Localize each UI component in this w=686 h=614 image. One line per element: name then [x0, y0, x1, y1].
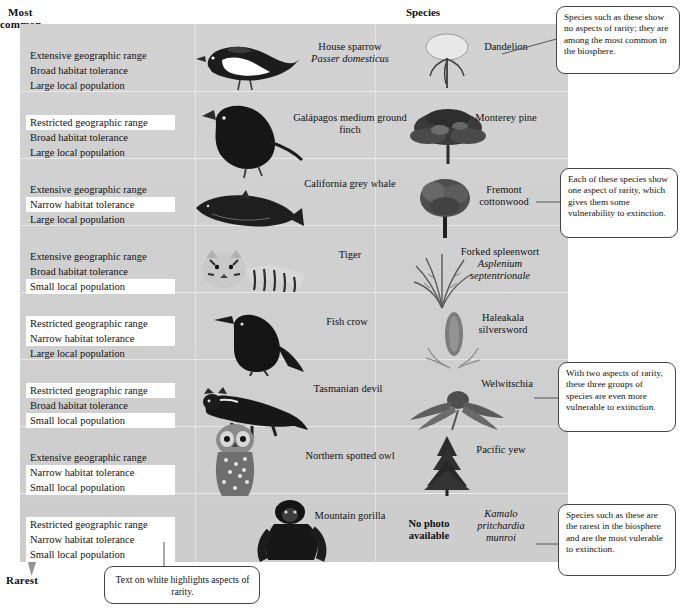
criteria-cell-row-1: Extensive geographic range Broad habitat…: [26, 48, 174, 93]
callout-rarest: Species such as these are the rarest in …: [558, 504, 676, 576]
species-column-header: Species: [368, 6, 478, 18]
species-name-spotted-owl: Northern spotted owl: [288, 450, 412, 462]
species-common-name: Dandelion: [484, 41, 528, 52]
criteria-line: Extensive geographic range: [26, 182, 174, 197]
callout-legend: Text on white highlights aspects of rari…: [104, 566, 260, 604]
criteria-line: Extensive geographic range: [26, 48, 174, 63]
tiger-illustration: [198, 248, 306, 310]
fish-crow-illustration: [196, 310, 306, 376]
species-name-tasmanian-devil: Tasmanian devil: [292, 383, 404, 395]
species-name-tiger: Tiger: [300, 249, 400, 261]
species-common-name: Forked spleenwort: [461, 246, 539, 257]
species-common-name: Fremont cottonwood: [479, 184, 529, 207]
monterey-pine-illustration: [400, 100, 496, 166]
criteria-line-highlighted: Narrow habitat tolerance: [26, 532, 175, 547]
criteria-line: Large local population: [26, 346, 174, 361]
species-name-fremont-cottonwood: Fremont cottonwood: [466, 184, 542, 208]
criteria-line-highlighted: Small local population: [26, 279, 175, 294]
species-common-name: Fish crow: [326, 316, 368, 327]
axis-most-line1: Most: [8, 6, 33, 18]
species-common-name: Haleakala silversword: [479, 312, 528, 335]
criteria-line-highlighted: Narrow habitat tolerance: [26, 331, 175, 346]
criteria-line: Broad habitat tolerance: [26, 130, 174, 145]
grey-whale-illustration: [192, 186, 312, 236]
species-scientific-name: Asplenium septentrionale: [450, 258, 550, 282]
criteria-line-highlighted: Restricted geographic range: [26, 115, 175, 130]
species-common-name: Galápagos medium ground finch: [293, 112, 407, 135]
species-common-name: California grey whale: [304, 178, 396, 189]
no-photo-label: No photo available: [408, 518, 449, 541]
criteria-line: Broad habitat tolerance: [26, 398, 174, 413]
criteria-line-highlighted: Restricted geographic range: [26, 316, 175, 331]
species-common-name: Northern spotted owl: [305, 450, 394, 461]
species-name-kamalo-pritchardia: Kamalo pritchardia munroi: [462, 508, 540, 544]
criteria-line-highlighted: Narrow habitat tolerance: [26, 197, 175, 212]
callout-no-rarity: Species such as these show no aspects of…: [556, 6, 680, 74]
species-name-haleakala-silversword: Haleakala silversword: [462, 312, 544, 336]
species-name-dandelion: Dandelion: [470, 41, 542, 53]
species-name-mountain-gorilla: Mountain gorilla: [292, 510, 408, 522]
species-name-grey-whale: California grey whale: [288, 178, 412, 190]
species-name-ground-finch: Galápagos medium ground finch: [290, 112, 410, 136]
ground-finch-illustration: [186, 98, 306, 180]
criteria-line: Broad habitat tolerance: [26, 264, 174, 279]
criteria-line: Large local population: [26, 212, 174, 227]
species-scientific-name: Passer domesticus: [290, 53, 410, 65]
species-name-pacific-yew: Pacific yew: [470, 444, 532, 456]
species-name-welwitschia: Welwitschia: [470, 378, 544, 390]
criteria-line-highlighted: Restricted geographic range: [26, 517, 175, 532]
pacific-yew-illustration: [412, 432, 482, 498]
callout-two-aspects: With two aspects of rarity, these three …: [558, 362, 676, 432]
criteria-cell-row-5: Restricted geographic range Narrow habit…: [26, 316, 174, 361]
species-common-name: House sparrow: [318, 41, 381, 52]
callout-one-aspect: Each of these species show one aspect of…: [560, 168, 678, 238]
criteria-cell-row-2: Restricted geographic range Broad habita…: [26, 115, 174, 160]
species-common-name: Pacific yew: [476, 444, 525, 455]
species-name-monterey-pine: Monterey pine: [470, 112, 542, 124]
species-common-name: Monterey pine: [475, 112, 537, 123]
species-name-house-sparrow: House sparrow Passer domesticus: [290, 41, 410, 65]
criteria-line-highlighted: Small local population: [26, 413, 175, 428]
criteria-cell-row-8: Restricted geographic range Narrow habit…: [26, 517, 174, 562]
species-common-name: Welwitschia: [481, 378, 533, 389]
criteria-line-highlighted: Small local population: [26, 480, 175, 495]
spotted-owl-illustration: [206, 422, 264, 498]
criteria-line: Large local population: [26, 78, 174, 93]
species-name-forked-spleenwort: Forked spleenwort Asplenium septentriona…: [450, 246, 550, 282]
no-photo-placeholder: No photo available: [398, 518, 460, 542]
species-scientific-name: Kamalo pritchardia munroi: [462, 508, 540, 544]
species-common-name: Mountain gorilla: [315, 510, 386, 521]
criteria-cell-row-4: Extensive geographic range Broad habitat…: [26, 249, 174, 294]
mountain-gorilla-illustration: [256, 498, 332, 562]
criteria-cell-row-7: Extensive geographic range Narrow habita…: [26, 450, 174, 495]
column-separator-species: [375, 24, 376, 562]
criteria-line-highlighted: Restricted geographic range: [26, 383, 175, 398]
criteria-line: Broad habitat tolerance: [26, 63, 174, 78]
species-common-name: Tasmanian devil: [314, 383, 383, 394]
criteria-line-highlighted: Narrow habitat tolerance: [26, 465, 175, 480]
criteria-line: Extensive geographic range: [26, 450, 174, 465]
welwitschia-illustration: [406, 388, 506, 432]
criteria-line: Extensive geographic range: [26, 249, 174, 264]
criteria-line: Large local population: [26, 145, 174, 160]
criteria-cell-row-6: Restricted geographic range Broad habita…: [26, 383, 174, 428]
species-common-name: Tiger: [339, 249, 361, 260]
criteria-line-highlighted: Small local population: [26, 547, 175, 562]
dandelion-illustration: [418, 32, 476, 90]
criteria-cell-row-3: Extensive geographic range Narrow habita…: [26, 182, 174, 227]
species-name-fish-crow: Fish crow: [292, 316, 402, 328]
